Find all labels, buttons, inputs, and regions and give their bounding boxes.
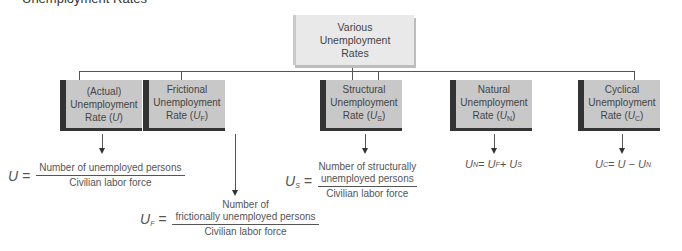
arrow-down-icon	[232, 190, 238, 196]
arrow-down-icon	[491, 148, 497, 154]
formula-natural: UN = UF + US	[465, 158, 522, 170]
arrow-down-icon	[99, 148, 105, 154]
arrow-line-natural	[494, 134, 495, 148]
arrow-down-icon	[619, 148, 625, 154]
heading-fragment: Unemployment Rates	[22, 0, 147, 6]
root-node-label: Various Unemployment Rates	[305, 21, 405, 60]
formula-frictional: UF = Number offrictionally unemployed pe…	[140, 199, 319, 238]
drop-line	[181, 71, 182, 80]
drop-line	[634, 71, 635, 80]
node-structural-rate: StructuralUnemploymentRate (US)	[320, 80, 402, 131]
node-frictional-rate: FrictionalUnemploymentRate (UF)	[143, 80, 225, 131]
drop-line	[378, 71, 379, 80]
formula-structural: US = Number of structurallyunemployed pe…	[285, 161, 417, 200]
arrow-line-frictional	[235, 134, 236, 190]
arrow-line-structural	[365, 134, 366, 148]
horizontal-connector	[79, 71, 634, 72]
arrow-line-cyclical	[622, 134, 623, 148]
node-natural-rate: NaturalUnemploymentRate (UN)	[450, 80, 532, 131]
arrow-down-icon	[362, 148, 368, 154]
formula-cyclical: UC = U − UN	[595, 158, 651, 170]
root-node-various-unemployment-rates: Various Unemployment Rates	[293, 15, 414, 65]
arrow-line-actual	[102, 134, 103, 148]
drop-line	[352, 71, 353, 80]
formula-actual: U = Number of unemployed personsCivilian…	[8, 162, 185, 189]
node-cyclical-rate: CyclicalUnemploymentRate (UC)	[578, 80, 660, 131]
node-actual-rate: (Actual)UnemploymentRate (U)	[60, 80, 142, 131]
drop-line	[79, 71, 80, 80]
